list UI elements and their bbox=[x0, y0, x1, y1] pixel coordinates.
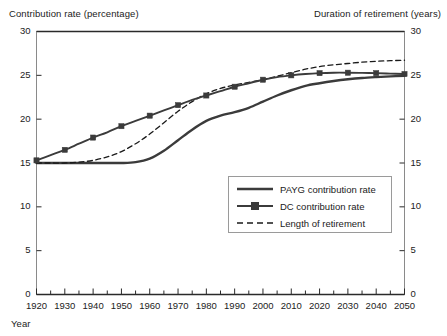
series-marker bbox=[317, 71, 322, 76]
series-marker bbox=[345, 70, 350, 75]
series-marker bbox=[62, 147, 67, 152]
legend-label-dc: DC contribution rate bbox=[280, 201, 364, 212]
series-marker bbox=[402, 71, 407, 76]
chart-figure: Contribution rate (percentage) Duration … bbox=[0, 0, 447, 336]
series-marker bbox=[91, 135, 96, 140]
legend-item-retirement: Length of retirement bbox=[235, 215, 365, 231]
y-tick-label-right: 25 bbox=[411, 69, 433, 80]
series-marker bbox=[289, 73, 294, 78]
x-tick-label: 2050 bbox=[388, 300, 422, 311]
y-tick-label-left: 10 bbox=[9, 200, 31, 211]
series-marker bbox=[34, 158, 39, 163]
y-tick-label-right: 15 bbox=[411, 157, 433, 168]
series-marker bbox=[260, 77, 265, 82]
y-tick-label-left: 20 bbox=[9, 113, 31, 124]
series-marker bbox=[175, 103, 180, 108]
y-tick-label-right: 0 bbox=[411, 288, 433, 299]
series-marker bbox=[119, 124, 124, 129]
y-tick-label-right: 10 bbox=[411, 200, 433, 211]
plot-area bbox=[0, 0, 447, 336]
chart-legend: PAYG contribution rate DC contribution r… bbox=[228, 176, 392, 233]
series-marker bbox=[147, 113, 152, 118]
series-marker bbox=[374, 71, 379, 76]
y-tick-label-left: 25 bbox=[9, 69, 31, 80]
legend-label-retirement: Length of retirement bbox=[280, 218, 365, 229]
y-tick-label-right: 5 bbox=[411, 244, 433, 255]
series-line-2 bbox=[37, 60, 405, 163]
legend-swatch-dashed-line bbox=[235, 216, 275, 230]
y-tick-label-left: 15 bbox=[9, 157, 31, 168]
series-marker bbox=[204, 93, 209, 98]
legend-swatch-solid-line-with-square-marker bbox=[235, 199, 275, 213]
y-tick-label-right: 20 bbox=[411, 113, 433, 124]
legend-item-payg: PAYG contribution rate bbox=[235, 181, 376, 197]
legend-swatch-solid-thick-line bbox=[235, 182, 275, 196]
y-tick-label-right: 30 bbox=[411, 25, 433, 36]
series-marker bbox=[232, 84, 237, 89]
y-tick-label-left: 5 bbox=[9, 244, 31, 255]
legend-item-dc: DC contribution rate bbox=[235, 198, 364, 214]
y-tick-label-left: 0 bbox=[9, 288, 31, 299]
legend-label-payg: PAYG contribution rate bbox=[280, 184, 376, 195]
y-tick-label-left: 30 bbox=[9, 25, 31, 36]
